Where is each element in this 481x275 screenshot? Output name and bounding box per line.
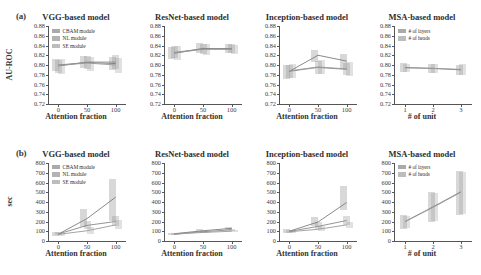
y-axis-tick-label: 400 <box>152 199 161 205</box>
y-axis-tick-label: 700 <box>382 170 391 176</box>
y-axis-tick-mark <box>162 241 165 242</box>
y-axis-tick-label: 600 <box>152 179 161 185</box>
legend-item: CBAM module <box>52 28 95 34</box>
panel-title: ResNet-based model <box>134 149 250 159</box>
y-axis-tick-label: 0.84 <box>380 42 391 48</box>
y-axis-tick-label: 0.74 <box>265 91 276 97</box>
y-axis-tick-label: 0.72 <box>150 101 161 107</box>
legend-swatch <box>52 180 60 184</box>
x-axis-tick-mark <box>203 241 204 244</box>
y-axis-tick-mark <box>46 104 49 105</box>
legend-swatch <box>398 36 406 40</box>
legend-swatch <box>52 165 60 169</box>
x-axis-tick-mark <box>405 241 406 244</box>
series-line <box>289 202 346 231</box>
y-axis-tick-label: 400 <box>267 199 276 205</box>
x-axis-tick-mark <box>58 104 59 107</box>
y-axis-tick-label: 200 <box>382 218 391 224</box>
x-axis-tick-mark <box>289 104 290 107</box>
chart-panel: Inception-based model0.880.860.840.820.8… <box>249 0 365 137</box>
legend-swatch <box>52 29 60 33</box>
y-axis-tick-label: 0.74 <box>380 91 391 97</box>
y-axis-tick-label: 0.74 <box>34 91 45 97</box>
y-axis-tick-label: 100 <box>152 228 161 234</box>
legend-item: SE module <box>52 43 95 49</box>
figure-root: (a) AU-ROC VGG-based model0.880.860.840.… <box>0 0 481 275</box>
y-axis-title-a: AU-ROC <box>5 43 14 87</box>
legend-item: # of heads <box>398 35 430 41</box>
panel-title: ResNet-based model <box>134 12 250 22</box>
legend-label: CBAM module <box>63 164 95 170</box>
legend-label: NL module <box>63 171 87 177</box>
legend-swatch <box>52 172 60 176</box>
chart-panel: ResNet-based model0.880.860.840.820.800.… <box>134 0 250 137</box>
legend-label: CBAM module <box>63 28 95 34</box>
y-axis-tick-label: 0.86 <box>380 33 391 39</box>
y-axis-tick-label: 200 <box>36 218 45 224</box>
y-axis-tick-label: 800 <box>36 160 45 166</box>
y-axis-tick-label: 0.72 <box>34 101 45 107</box>
y-axis-tick-label: 0.84 <box>34 42 45 48</box>
y-axis-tick-label: 0.78 <box>34 72 45 78</box>
plot-area: 0.880.860.840.820.800.780.760.740.720501… <box>279 26 357 104</box>
y-axis-tick-label: 0.78 <box>150 72 161 78</box>
y-axis-tick-label: 0.80 <box>265 62 276 68</box>
y-axis-tick-label: 300 <box>152 209 161 215</box>
y-axis-tick-label: 800 <box>382 160 391 166</box>
panel-title: MSA-based model <box>364 12 480 22</box>
y-axis-tick-label: 0.84 <box>150 42 161 48</box>
y-axis-tick-label: 0.72 <box>265 101 276 107</box>
y-axis-tick-label: 0.82 <box>380 52 391 58</box>
chart-panel: ResNet-based model8007006005004003002001… <box>134 137 250 274</box>
chart-legend: CBAM moduleNL moduleSE module <box>52 164 95 186</box>
series-line <box>405 192 461 221</box>
legend-swatch <box>398 172 406 176</box>
y-axis-tick-label: 200 <box>152 218 161 224</box>
series-lines <box>164 163 242 241</box>
x-axis-tick-mark <box>58 241 59 244</box>
legend-item: # of layers <box>398 164 430 170</box>
x-axis-tick-mark <box>174 104 175 107</box>
y-axis-tick-label: 0.72 <box>380 101 391 107</box>
y-axis-tick-label: 0.88 <box>380 23 391 29</box>
x-axis-title: # of unit <box>364 112 480 121</box>
x-axis-tick-mark <box>461 104 462 107</box>
y-axis-tick-label: 100 <box>36 228 45 234</box>
y-axis-tick-label: 100 <box>267 228 276 234</box>
x-axis-title: Attention fraction <box>134 112 250 121</box>
y-axis-tick-label: 700 <box>36 170 45 176</box>
y-axis-tick-label: 0.76 <box>380 81 391 87</box>
series-lines <box>279 163 357 241</box>
y-axis-tick-mark <box>46 241 49 242</box>
y-axis-tick-label: 0.84 <box>265 42 276 48</box>
x-axis-tick-mark <box>232 104 233 107</box>
y-axis-tick-mark <box>277 241 280 242</box>
legend-item: NL module <box>52 35 95 41</box>
y-axis-tick-label: 0.76 <box>150 81 161 87</box>
y-axis-tick-label: 0.88 <box>150 23 161 29</box>
x-axis-tick-mark <box>116 104 117 107</box>
panel-title: VGG-based model <box>18 12 134 22</box>
y-axis-tick-mark <box>392 104 395 105</box>
y-axis-tick-label: 600 <box>267 179 276 185</box>
y-axis-tick-label: 0.82 <box>150 52 161 58</box>
y-axis-tick-label: 0.76 <box>265 81 276 87</box>
y-axis-tick-label: 0.80 <box>380 62 391 68</box>
plot-area: 8007006005004003002001000050100 <box>279 163 357 241</box>
x-axis-title: Attention fraction <box>249 249 365 258</box>
y-axis-tick-label: 0.78 <box>265 72 276 78</box>
chart-panel: MSA-based model0.880.860.840.820.800.780… <box>364 0 480 137</box>
legend-label: # of heads <box>409 171 430 177</box>
legend-swatch <box>52 36 60 40</box>
y-axis-tick-label: 0.86 <box>265 33 276 39</box>
chart-legend: # of layers# of heads <box>398 164 430 179</box>
chart-panel: VGG-based model0.880.860.840.820.800.780… <box>18 0 134 137</box>
y-axis-title-b: sec <box>5 183 14 221</box>
x-axis-tick-mark <box>174 241 175 244</box>
y-axis-tick-label: 0.88 <box>34 23 45 29</box>
series-line <box>405 68 461 69</box>
chart-panel: VGG-based model8007006005004003002001000… <box>18 137 134 274</box>
y-axis-tick-label: 500 <box>267 189 276 195</box>
panel-title: MSA-based model <box>364 149 480 159</box>
legend-swatch <box>52 44 60 48</box>
